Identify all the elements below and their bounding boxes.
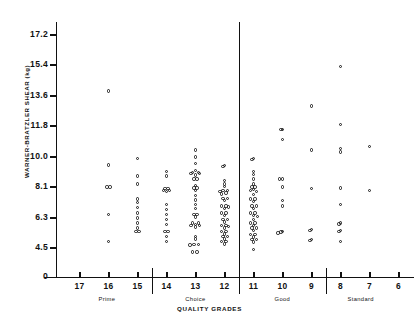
data-point	[279, 230, 282, 233]
data-point	[136, 221, 139, 224]
data-point	[194, 173, 197, 176]
data-point	[134, 230, 137, 233]
data-point	[188, 243, 191, 246]
data-point	[310, 187, 313, 190]
data-point	[250, 158, 253, 161]
data-point	[165, 240, 168, 243]
data-point	[165, 235, 168, 238]
data-point	[220, 192, 223, 195]
data-point	[165, 213, 168, 216]
data-point	[281, 138, 284, 141]
data-point	[194, 237, 197, 240]
data-point	[227, 225, 230, 228]
data-point	[194, 148, 197, 151]
data-point	[310, 104, 313, 107]
data-point	[194, 189, 197, 192]
data-point	[136, 182, 139, 185]
data-point	[194, 203, 197, 206]
x-axis-label: QUALITY GRADES	[0, 305, 419, 312]
data-point	[339, 240, 342, 243]
data-point	[221, 165, 224, 168]
data-point	[136, 201, 139, 204]
data-point	[189, 172, 192, 175]
data-point	[197, 243, 200, 246]
data-point	[165, 170, 168, 173]
data-point	[194, 225, 197, 228]
data-point	[224, 191, 227, 194]
data-point	[281, 177, 284, 180]
data-point	[339, 150, 342, 153]
data-point	[252, 177, 255, 180]
data-point	[368, 189, 371, 192]
data-point	[279, 128, 282, 131]
data-point	[107, 213, 110, 216]
data-point	[339, 186, 342, 189]
data-point	[192, 243, 195, 246]
data-point	[194, 162, 197, 165]
data-point	[368, 145, 371, 148]
data-point	[310, 148, 313, 151]
data-point	[339, 65, 342, 68]
data-point	[223, 185, 226, 188]
data-point	[165, 208, 168, 211]
chart-figure: WARNER-BRATZLER SHEAR (kg) 04.56.38.110.…	[0, 0, 419, 314]
scatter-points-layer	[0, 0, 419, 314]
data-point	[189, 224, 192, 227]
data-point	[194, 155, 197, 158]
data-point	[255, 226, 258, 229]
data-point	[226, 197, 229, 200]
data-point	[256, 215, 259, 218]
data-point	[252, 193, 255, 196]
data-point	[165, 174, 168, 177]
data-point	[308, 239, 311, 242]
data-point	[107, 240, 110, 243]
data-point	[339, 203, 342, 206]
data-point	[136, 157, 139, 160]
data-point	[223, 199, 226, 202]
data-point	[194, 194, 197, 197]
data-point	[252, 207, 255, 210]
data-point	[108, 185, 111, 188]
data-point	[192, 177, 195, 180]
data-point	[165, 218, 168, 221]
data-point	[276, 231, 279, 234]
data-point	[194, 198, 197, 201]
data-point	[165, 223, 168, 226]
data-point	[198, 224, 201, 227]
data-point	[107, 89, 110, 92]
data-point	[339, 123, 342, 126]
data-point	[252, 214, 255, 217]
data-point	[223, 214, 226, 217]
data-point	[255, 190, 258, 193]
data-point	[165, 203, 168, 206]
data-point	[227, 205, 230, 208]
data-point	[136, 211, 139, 214]
data-point	[166, 230, 169, 233]
data-point	[255, 238, 258, 241]
data-point	[165, 190, 168, 193]
data-point	[136, 174, 139, 177]
data-point	[107, 163, 110, 166]
data-point	[249, 189, 252, 192]
data-point	[168, 189, 171, 192]
data-point	[252, 229, 255, 232]
data-point	[226, 218, 229, 221]
data-point	[281, 185, 284, 188]
data-point	[136, 216, 139, 219]
data-point	[137, 230, 140, 233]
data-point	[136, 206, 139, 209]
data-point	[223, 242, 226, 245]
data-point	[337, 230, 340, 233]
data-point	[252, 248, 255, 251]
data-point	[252, 200, 255, 203]
data-point	[255, 204, 258, 207]
data-point	[226, 235, 229, 238]
data-point	[198, 172, 201, 175]
data-point	[337, 222, 340, 225]
data-point	[191, 250, 194, 253]
data-point	[252, 240, 255, 243]
data-point	[278, 177, 281, 180]
data-point	[252, 173, 255, 176]
data-point	[195, 250, 198, 253]
data-point	[308, 229, 311, 232]
